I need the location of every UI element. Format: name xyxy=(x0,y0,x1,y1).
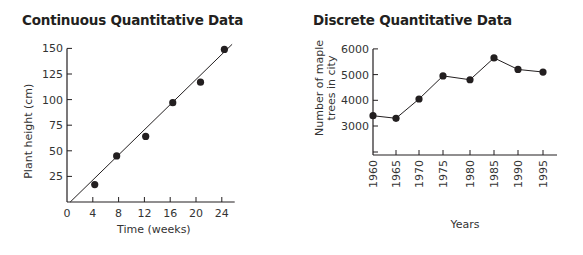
x-tick-label: 1960 xyxy=(367,160,380,188)
x-tick-label: 1965 xyxy=(390,160,403,188)
data-point xyxy=(197,79,204,86)
data-point xyxy=(369,112,376,119)
trend-line xyxy=(70,44,232,202)
x-tick-label: 1990 xyxy=(512,160,525,188)
y-tick-label: 5000 xyxy=(341,69,369,82)
data-point xyxy=(142,133,149,140)
x-tick-label: 8 xyxy=(115,207,122,220)
x-axis-label: Time (weeks) xyxy=(116,223,191,236)
x-tick-label: 1995 xyxy=(537,160,550,188)
y-tick-label: 6000 xyxy=(341,43,369,56)
data-point xyxy=(169,99,176,106)
charts-canvas: 25507510012515004812162024Time (weeks)Pl… xyxy=(0,0,583,255)
y-tick-label: 150 xyxy=(42,42,63,55)
data-point xyxy=(221,46,228,53)
data-point xyxy=(91,181,98,188)
discrete-chart: 3000400050006000196019651970197519801985… xyxy=(313,40,557,231)
y-tick-label: 75 xyxy=(49,119,63,132)
y-axis-label: Plant height (cm) xyxy=(22,84,35,179)
data-point xyxy=(439,72,446,79)
data-point xyxy=(392,115,399,122)
y-tick-label: 125 xyxy=(42,68,63,81)
x-axis-label: Years xyxy=(449,218,479,231)
x-tick-label: 20 xyxy=(189,207,203,220)
x-tick-label: 1975 xyxy=(437,160,450,188)
y-tick-label: 3000 xyxy=(341,120,369,133)
x-tick-label: 0 xyxy=(64,207,71,220)
data-point xyxy=(490,54,497,61)
continuous-chart: 25507510012515004812162024Time (weeks)Pl… xyxy=(22,42,235,236)
x-tick-label: 24 xyxy=(215,207,229,220)
data-point xyxy=(539,68,546,75)
y-tick-label: 4000 xyxy=(341,94,369,107)
data-point xyxy=(466,76,473,83)
data-point xyxy=(415,95,422,102)
y-tick-label: 50 xyxy=(49,145,63,158)
y-tick-label: 25 xyxy=(49,170,63,183)
x-tick-label: 16 xyxy=(163,207,177,220)
x-tick-label: 1980 xyxy=(464,160,477,188)
x-tick-label: 1985 xyxy=(488,160,501,188)
data-point xyxy=(113,152,120,159)
y-tick-label: 100 xyxy=(42,94,63,107)
y-axis-label: Number of mapletrees in city xyxy=(313,40,338,136)
data-point xyxy=(514,66,521,73)
x-tick-label: 1970 xyxy=(413,160,426,188)
x-tick-label: 12 xyxy=(137,207,151,220)
x-tick-label: 4 xyxy=(89,207,96,220)
